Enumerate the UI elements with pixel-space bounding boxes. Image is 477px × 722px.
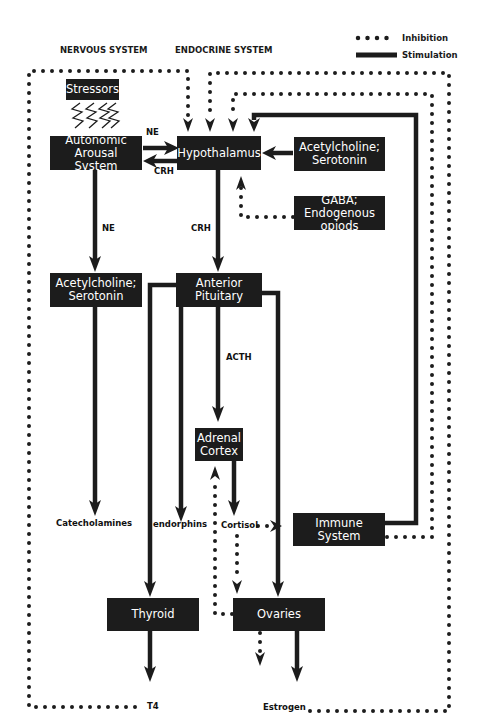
node-gaba-endogenous-opiods: GABA; Endogenous opiods xyxy=(294,196,385,230)
label-catecholamines: Catecholamines xyxy=(56,518,132,528)
node-acetylcholine-serotonin-left: Acetylcholine; Serotonin xyxy=(50,273,142,307)
label-ne-top: NE xyxy=(146,127,159,137)
header-endocrine-system: ENDOCRINE SYSTEM xyxy=(175,45,273,55)
node-ovaries: Ovaries xyxy=(233,598,325,631)
label-acth: ACTH xyxy=(226,352,252,362)
label-ne-down: NE xyxy=(102,223,115,233)
node-autonomic-arousal-system: Autonomic Arousal System xyxy=(50,136,142,170)
header-nervous-system: NERVOUS SYSTEM xyxy=(60,45,148,55)
node-thyroid: Thyroid xyxy=(107,598,199,631)
node-stressors: Stressors xyxy=(66,79,119,100)
label-cortisol: Cortisol xyxy=(221,520,258,530)
legend-inhibition-label: Inhibition xyxy=(402,33,448,43)
label-estrogen: Estrogen xyxy=(263,702,306,712)
node-acetylcholine-serotonin-right: Acetylcholine; Serotonin xyxy=(294,137,385,171)
label-crh-down: CRH xyxy=(191,223,211,233)
node-hypothalamus: Hypothalamus xyxy=(177,136,261,170)
label-endorphins: endorphins xyxy=(153,519,207,529)
inhibition-ovaries-to-adrenal xyxy=(215,478,232,614)
node-adrenal-cortex: Adrenal Cortex xyxy=(195,428,243,461)
label-crh-left: CRH xyxy=(154,166,174,176)
stressor-zigzag-icon xyxy=(72,103,119,128)
node-immune-system: Immune System xyxy=(293,513,385,546)
node-anterior-pituitary: Anterior Pituitary xyxy=(176,273,262,307)
inhibition-gaba-to-hypothalamus xyxy=(241,180,293,217)
label-t4: T4 xyxy=(147,701,159,711)
legend-stimulation-label: Stimulation xyxy=(402,50,458,60)
stress-response-diagram: NERVOUS SYSTEM ENDOCRINE SYSTEM Inhibiti… xyxy=(0,0,477,722)
